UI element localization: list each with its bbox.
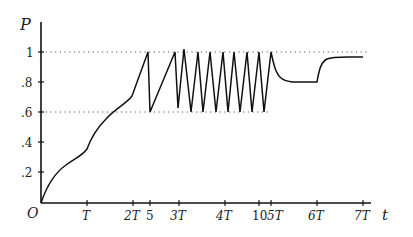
y-tick-label: .2 — [21, 166, 32, 180]
y-tick-label: .4 — [21, 136, 33, 150]
x-tick-label: 4T — [215, 209, 233, 223]
origin-label: O — [27, 205, 39, 221]
x-tick-label: 3T — [170, 209, 187, 223]
x-tick-label: 5 — [146, 209, 154, 223]
y-axis-label: P — [19, 15, 31, 34]
x-tick-label: 2T — [123, 209, 141, 223]
y-tick-label: .6 — [21, 106, 32, 120]
x-tick-label: 10 — [252, 209, 267, 223]
x-tick-label: 6T — [308, 209, 325, 223]
x-tick-label: 7T — [354, 209, 371, 223]
y-tick-label: 1 — [26, 46, 34, 60]
series-line — [41, 49, 363, 203]
x-axis-label: t — [382, 206, 389, 224]
x-tick-label: T — [82, 209, 91, 223]
x-tick-label: 5T — [267, 209, 284, 223]
chart: 1 .8 .6 .4 .2 T 2T 5 3T 4T 10 5T 6T 7T P… — [0, 0, 413, 237]
y-tick-label: .8 — [21, 76, 32, 90]
